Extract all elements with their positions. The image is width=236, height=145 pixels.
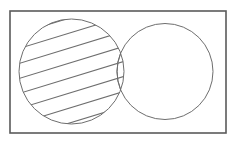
venn-diagram-figure [0,0,236,145]
background [0,0,236,145]
venn-diagram-canvas [0,0,236,145]
